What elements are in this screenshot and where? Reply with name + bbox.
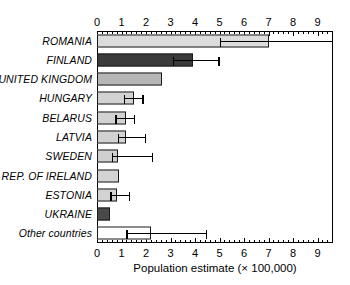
error-bar-cap-high xyxy=(142,95,143,104)
error-bar xyxy=(124,98,144,99)
category-label: LATVIA xyxy=(56,131,92,143)
x-axis-title: Population estimate (× 100,000) xyxy=(97,262,333,274)
error-bar-cap-high xyxy=(206,230,207,239)
bar-row: UNITED KINGDOM xyxy=(0,70,350,89)
x-tick-label: 6 xyxy=(234,247,254,259)
x-tick-label: 4 xyxy=(185,247,205,259)
error-bar xyxy=(118,137,146,138)
error-bar-cap-high xyxy=(152,153,153,162)
error-bar xyxy=(110,195,130,196)
x-tick-label: 0 xyxy=(87,16,107,28)
error-bar-cap-low xyxy=(118,134,119,143)
error-bar xyxy=(112,156,154,157)
x-tick-label: 3 xyxy=(161,16,181,28)
category-label: ESTONIA xyxy=(45,189,92,201)
error-bar-cap-low xyxy=(173,57,174,66)
x-tick-label: 6 xyxy=(234,16,254,28)
bar xyxy=(97,73,162,86)
x-tick-label: 8 xyxy=(283,16,303,28)
error-bar-cap-low xyxy=(124,95,125,104)
bar-row: UKRAINE xyxy=(0,204,350,223)
x-tick-label: 9 xyxy=(308,247,328,259)
error-bar xyxy=(173,60,220,61)
error-bar-cap-low xyxy=(115,115,116,124)
x-tick-label: 5 xyxy=(210,16,230,28)
category-label: ROMANIA xyxy=(42,35,92,47)
category-label: SWEDEN xyxy=(45,150,92,162)
x-tick-label: 7 xyxy=(259,247,279,259)
category-label: HUNGARY xyxy=(39,92,92,104)
category-label: Other countries xyxy=(19,227,92,239)
error-bar xyxy=(115,118,135,119)
bar-chart: 0123456789 0123456789 ROMANIAFINLANDUNIT… xyxy=(0,0,350,285)
x-tick-label: 1 xyxy=(112,16,132,28)
bar-row: ROMANIA xyxy=(0,31,350,50)
bar-row: ESTONIA xyxy=(0,185,350,204)
bar-row: BELARUS xyxy=(0,108,350,127)
error-bar-cap-low xyxy=(110,192,111,201)
error-bar xyxy=(220,41,333,42)
category-label: UKRAINE xyxy=(45,208,92,220)
bar-row: HUNGARY xyxy=(0,89,350,108)
x-tick-label: 8 xyxy=(283,247,303,259)
x-tick-label: 7 xyxy=(259,16,279,28)
x-tick-label: 2 xyxy=(136,247,156,259)
error-bar-cap-low xyxy=(220,38,221,47)
error-bar-cap-high xyxy=(134,115,135,124)
x-tick-label: 2 xyxy=(136,16,156,28)
x-tick-label: 4 xyxy=(185,16,205,28)
bar-row: Other countries xyxy=(0,224,350,243)
category-label: BELARUS xyxy=(42,112,92,124)
error-bar-cap-high xyxy=(129,192,130,201)
bar-row: REP. OF IRELAND xyxy=(0,166,350,185)
x-tick-label: 3 xyxy=(161,247,181,259)
error-bar-cap-low xyxy=(126,230,127,239)
category-label: FINLAND xyxy=(46,54,92,66)
bars-clip: ROMANIAFINLANDUNITED KINGDOMHUNGARYBELAR… xyxy=(0,31,350,243)
x-tick-label: 9 xyxy=(308,16,328,28)
x-tick-label: 5 xyxy=(210,247,230,259)
bar xyxy=(97,169,119,182)
error-bar-cap-low xyxy=(112,153,113,162)
category-label: REP. OF IRELAND xyxy=(2,170,92,182)
error-bar xyxy=(126,233,207,234)
bar xyxy=(97,208,110,221)
x-tick-label: 1 xyxy=(112,247,132,259)
x-tick-label: 0 xyxy=(87,247,107,259)
error-bar-cap-high xyxy=(218,57,219,66)
bar-rows: ROMANIAFINLANDUNITED KINGDOMHUNGARYBELAR… xyxy=(0,31,350,243)
bar-row: LATVIA xyxy=(0,127,350,146)
bar-row: SWEDEN xyxy=(0,147,350,166)
bar-row: FINLAND xyxy=(0,50,350,69)
error-bar-cap-high xyxy=(145,134,146,143)
category-label: UNITED KINGDOM xyxy=(0,73,92,85)
